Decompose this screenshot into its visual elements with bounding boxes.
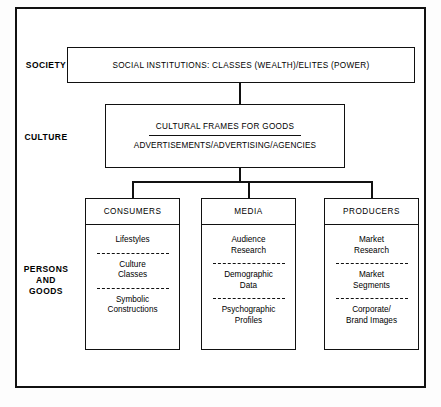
column-header-producers: PRODUCERS	[324, 198, 419, 225]
dashed-separator	[97, 288, 169, 289]
society-box-text: SOCIAL INSTITUTIONS: CLASSES (WEALTH)/EL…	[112, 61, 369, 70]
connector-drop-media	[248, 181, 250, 199]
column-body-media: Audience Research Demographic Data Psych…	[201, 225, 296, 350]
column-body-consumers: Lifestyles Culture Classes Symbolic Cons…	[85, 225, 180, 350]
column-media: MEDIA Audience Research Demographic Data…	[201, 198, 296, 350]
connector-society-to-culture	[239, 83, 241, 105]
column-body-producers: Market Research Market Segments Corporat…	[324, 225, 419, 350]
dashed-separator	[213, 298, 285, 299]
connector-drop-consumers	[132, 181, 134, 199]
list-item: Demographic Data	[224, 270, 273, 291]
dashed-separator	[97, 253, 169, 254]
connector-culture-stem	[239, 168, 241, 182]
culture-box: CULTURAL FRAMES FOR GOODS ADVERTISEMENTS…	[105, 104, 345, 168]
column-header-media-label: MEDIA	[234, 207, 262, 216]
list-item: Market Segments	[353, 270, 390, 291]
list-item: Corporate/ Brand Images	[346, 305, 397, 326]
list-item: Audience Research	[231, 235, 266, 256]
row-label-culture: CULTURE	[22, 132, 70, 143]
column-producers: PRODUCERS Market Research Market Segment…	[324, 198, 419, 350]
column-header-consumers: CONSUMERS	[85, 198, 180, 225]
dashed-separator	[213, 263, 285, 264]
column-header-consumers-label: CONSUMERS	[104, 207, 162, 216]
list-item: Psychographic Profiles	[222, 305, 276, 326]
connector-horizontal-bus	[132, 181, 372, 183]
list-item: Culture Classes	[118, 260, 147, 281]
row-label-persons-and-goods: PERSONS AND GOODS	[20, 264, 72, 297]
diagram-canvas: SOCIETY CULTURE PERSONS AND GOODS SOCIAL…	[0, 0, 441, 407]
connector-drop-producers	[371, 181, 373, 199]
column-header-media: MEDIA	[201, 198, 296, 225]
column-header-producers-label: PRODUCERS	[343, 207, 400, 216]
column-consumers: CONSUMERS Lifestyles Culture Classes Sym…	[85, 198, 180, 350]
dashed-separator	[336, 263, 408, 264]
culture-box-line2: ADVERTISEMENTS/ADVERTISING/AGENCIES	[134, 141, 316, 150]
list-item: Market Research	[354, 235, 389, 256]
dashed-separator	[336, 298, 408, 299]
society-box: SOCIAL INSTITUTIONS: CLASSES (WEALTH)/EL…	[67, 47, 415, 83]
list-item: Lifestyles	[115, 235, 149, 246]
culture-box-divider	[149, 135, 301, 137]
culture-box-line1: CULTURAL FRAMES FOR GOODS	[156, 122, 295, 131]
list-item: Symbolic Constructions	[107, 295, 157, 316]
row-label-society: SOCIETY	[22, 60, 70, 71]
